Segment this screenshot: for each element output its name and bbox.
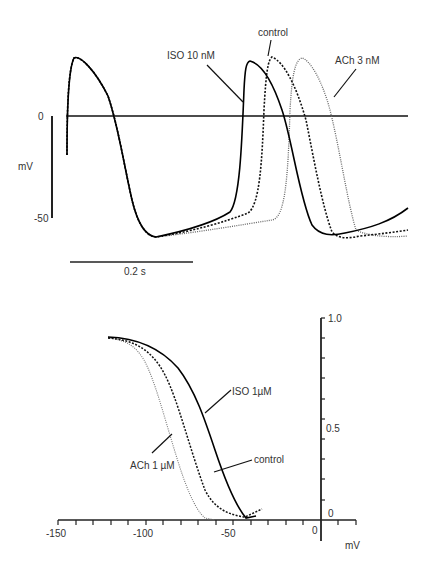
curve-control (108, 338, 262, 517)
leader-ach-1um (152, 434, 172, 453)
x-tick-minus50: -50 (221, 528, 236, 539)
leader-iso-10nm (207, 65, 243, 102)
trace-control (67, 57, 408, 238)
panel-action-potentials: 0 -50 mV 0.2 s ISO 10 nM control ACh 3 n… (18, 27, 408, 277)
figure: 0 -50 mV 0.2 s ISO 10 nM control ACh 3 n… (0, 0, 428, 572)
curve-iso-1um (108, 337, 256, 518)
leader-ach-3nm (334, 69, 356, 97)
y-tick-0: 0 (328, 508, 334, 519)
label-control-b: control (254, 454, 284, 465)
time-scale-label: 0.2 s (124, 266, 146, 277)
label-iso-10nm: ISO 10 nM (167, 50, 215, 61)
x-tick-minus100: -100 (133, 528, 153, 539)
curve-ach-1um (108, 338, 215, 520)
label-ach-1um: ACh 1 µM (130, 460, 175, 471)
x-tick-minus150: -150 (46, 528, 66, 539)
y-tick-1: 1.0 (328, 313, 342, 324)
label-iso-1um: ISO 1µM (232, 386, 272, 397)
trace-iso-10nm (67, 58, 408, 237)
leader-control (268, 40, 271, 56)
y-tick-0.5: 0.5 (326, 423, 340, 434)
y-tick-0: 0 (38, 111, 44, 122)
y-tick-minus50: -50 (34, 213, 49, 224)
leader-iso-1um (205, 390, 231, 413)
x-axis-label: mV (345, 540, 360, 551)
label-ach-3nm: ACh 3 nM (335, 55, 379, 66)
y-axis-label: mV (18, 161, 33, 172)
trace-ach-3nm (67, 58, 408, 237)
panel-activation-curves: -150 -100 -50 0 mV 1.0 0.5 0 ISO 1µM con… (46, 313, 360, 551)
label-control: control (258, 27, 288, 38)
x-tick-0: 0 (312, 525, 318, 536)
